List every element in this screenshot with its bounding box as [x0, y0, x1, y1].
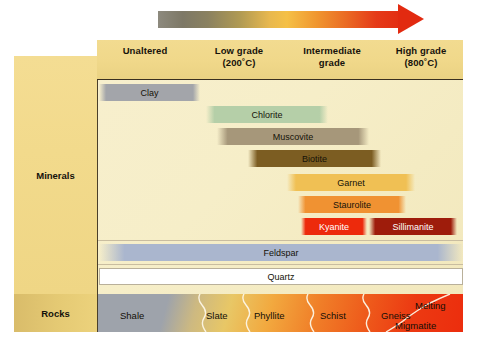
rock-label-phyllite: Phyllite: [254, 310, 285, 321]
mineral-bar-label: Staurolite: [333, 200, 371, 210]
column-header-low-grade: Low grade (200˚C): [193, 45, 285, 77]
mineral-stability-field: Clay Chlorite Muscovite Biotite Garnet S…: [97, 80, 463, 294]
mineral-bar-label: Chlorite: [251, 110, 282, 120]
column-header-sub: grade: [319, 57, 345, 69]
mineral-bar-biotite: Biotite: [248, 150, 381, 167]
row-label-minerals-text: Minerals: [14, 56, 97, 294]
column-header-high-grade: High grade (800˚C): [379, 45, 463, 77]
column-header-sub: (800˚C): [405, 57, 438, 69]
rock-types-strip: Shale Slate Phyllite Schist Gneiss Migma…: [97, 294, 463, 332]
column-header-label: High grade: [396, 45, 447, 57]
row-label-minerals: Minerals: [14, 56, 97, 294]
row-label-rocks-text: Rocks: [14, 294, 97, 332]
mineral-bar-label: Garnet: [337, 178, 365, 188]
column-header-intermediate-grade: Intermediate grade: [285, 45, 379, 77]
chart-frame: Unaltered Low grade (200˚C) Intermediate…: [14, 40, 463, 332]
mineral-bar-label: Biotite: [302, 154, 327, 164]
mineral-bar-label: Quartz: [267, 272, 294, 282]
temperature-arrow: [158, 4, 458, 34]
rock-label-melting: Melting: [415, 300, 446, 311]
column-header-label: Intermediate: [303, 45, 361, 57]
mineral-bar-chlorite: Chlorite: [206, 106, 328, 123]
mineral-bar-label: Clay: [140, 88, 158, 98]
mineral-bar-kyanite: Kyanite: [301, 218, 367, 235]
column-header-unaltered: Unaltered: [97, 45, 193, 77]
mineral-bar-quartz: Quartz: [99, 268, 463, 285]
row-label-rocks: Rocks: [14, 294, 97, 332]
arrow-shaft-icon: [158, 11, 406, 28]
mineral-bar-label: Sillimanite: [392, 222, 433, 232]
mineral-bar-staurolite: Staurolite: [298, 196, 406, 213]
divider-line: [98, 240, 463, 241]
mineral-bar-label: Feldspar: [263, 248, 298, 258]
grade-header-row: Unaltered Low grade (200˚C) Intermediate…: [97, 40, 463, 80]
mineral-bar-clay: Clay: [99, 84, 200, 101]
mineral-bar-garnet: Garnet: [287, 174, 415, 191]
arrow-head-icon: [398, 4, 424, 34]
rock-label-migmatite: Migmatite: [395, 320, 436, 331]
column-header-label: Low grade: [215, 45, 263, 57]
mineral-bar-muscovite: Muscovite: [217, 128, 369, 145]
mineral-bar-sillimanite: Sillimanite: [369, 218, 457, 235]
column-header-sub: (200˚C): [223, 57, 256, 69]
rock-label-shale: Shale: [120, 310, 144, 321]
mineral-bar-label: Muscovite: [273, 132, 314, 142]
rock-label-schist: Schist: [320, 310, 346, 321]
mineral-bar-label: Kyanite: [319, 222, 349, 232]
divider-line: [98, 264, 463, 265]
rock-label-slate: Slate: [206, 310, 228, 321]
metamorphic-grade-diagram: Unaltered Low grade (200˚C) Intermediate…: [0, 0, 477, 344]
column-header-label: Unaltered: [123, 45, 168, 57]
mineral-bar-feldspar: Feldspar: [99, 244, 463, 261]
